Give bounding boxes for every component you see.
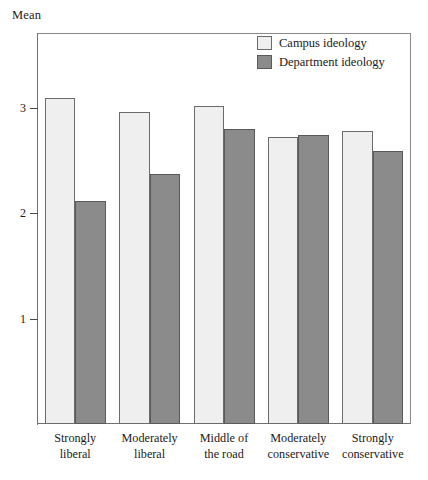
y-tick-label-text: 1 — [4, 313, 26, 325]
bar — [373, 151, 404, 424]
x-tick-label-line: Middle of — [187, 430, 261, 446]
legend-swatch-icon-campus — [257, 36, 272, 50]
legend-item-campus-ideology: Campus ideology — [257, 36, 407, 50]
x-tick-label: Stronglyliberal — [38, 430, 112, 462]
x-tick-label-line: Strongly — [336, 430, 410, 446]
bar — [45, 98, 76, 424]
bar — [342, 131, 373, 424]
y-tick-mark — [30, 108, 38, 109]
legend-label-department: Department ideology — [279, 55, 385, 69]
x-tick-label: Moderatelyconservative — [261, 430, 335, 462]
bar — [224, 129, 255, 424]
x-tick-label: Stronglyconservative — [336, 430, 410, 462]
bar-chart: Mean 123 StronglyliberalModeratelylibera… — [0, 0, 428, 480]
x-axis-labels: StronglyliberalModeratelyliberalMiddle o… — [37, 430, 411, 476]
bar — [298, 135, 329, 424]
bar — [119, 112, 150, 424]
x-tick-label: Middle ofthe road — [187, 430, 261, 462]
y-tick-mark — [30, 319, 38, 320]
x-tick-label-line: conservative — [336, 446, 410, 462]
legend-label-campus: Campus ideology — [279, 36, 367, 50]
y-tick-label-text: 3 — [4, 102, 26, 114]
y-tick-label: 1 — [0, 313, 26, 325]
legend-swatch-icon-department — [257, 55, 272, 69]
bars-layer — [38, 34, 410, 424]
y-tick-mark — [30, 213, 38, 214]
x-tick-label-line: conservative — [261, 446, 335, 462]
bar — [150, 174, 181, 424]
y-tick-label: 2 — [0, 207, 26, 219]
x-tick-label-line: the road — [187, 446, 261, 462]
chart-legend: Campus ideology Department ideology — [257, 36, 407, 74]
x-tick-label-line: Moderately — [261, 430, 335, 446]
x-tick-label: Moderatelyliberal — [112, 430, 186, 462]
bar — [268, 137, 299, 424]
y-tick-label-text: 2 — [4, 207, 26, 219]
y-tick-label: 3 — [0, 102, 26, 114]
x-tick-label-line: Moderately — [112, 430, 186, 446]
x-tick-label-line: liberal — [112, 446, 186, 462]
y-axis-title: Mean — [12, 8, 41, 23]
bar — [194, 106, 225, 424]
x-tick-label-line: liberal — [38, 446, 112, 462]
x-tick-label-line: Strongly — [38, 430, 112, 446]
bar — [75, 201, 106, 424]
legend-item-department-ideology: Department ideology — [257, 55, 407, 69]
